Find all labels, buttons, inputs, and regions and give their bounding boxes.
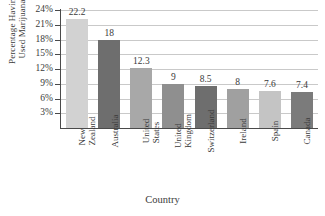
bar-series	[61, 10, 318, 128]
y-axis-tick-label: 21%	[36, 20, 53, 30]
x-axis-tick-labels: NewZealandAustraliaUnitedStatesUnitedKin…	[61, 131, 318, 191]
bar-slot	[291, 10, 313, 128]
bar-value-label: 8.5	[200, 75, 212, 85]
bar-value-label: 12.3	[133, 57, 150, 67]
y-axis-tick-label: 9%	[40, 79, 53, 89]
y-axis-tick-label: 15%	[36, 49, 53, 59]
y-axis-tick-label: 18%	[36, 35, 53, 45]
bar-value-label: 22.2	[69, 8, 86, 18]
bar-value-label: 9	[171, 73, 176, 83]
y-axis-tick-label: 6%	[40, 94, 53, 104]
y-axis-tick-label: 12%	[36, 64, 53, 74]
bar-slot	[227, 10, 249, 128]
bar-slot	[162, 10, 184, 128]
bar-value-label: 8	[235, 78, 240, 88]
y-axis-tick-labels: 3%6%9%12%15%18%21%24%	[0, 0, 53, 135]
bar[interactable]	[66, 19, 88, 128]
bar-slot	[259, 10, 281, 128]
bar-chart: Percentage Having Used Marijuana 3%6%9%1…	[0, 0, 325, 216]
bar-slot	[130, 10, 152, 128]
x-axis-tick-label-line: Canada	[302, 118, 312, 145]
x-axis-title: Country	[0, 194, 325, 205]
y-axis-tick-label: 3%	[40, 108, 53, 118]
x-axis-tick-label: Canada	[272, 131, 325, 141]
bar-value-label: 7.4	[296, 81, 308, 91]
bar-slot	[66, 10, 88, 128]
y-axis-tick-label: 24%	[36, 5, 53, 15]
bar-value-label: 7.6	[264, 80, 276, 90]
bar-value-label: 18	[104, 29, 114, 39]
